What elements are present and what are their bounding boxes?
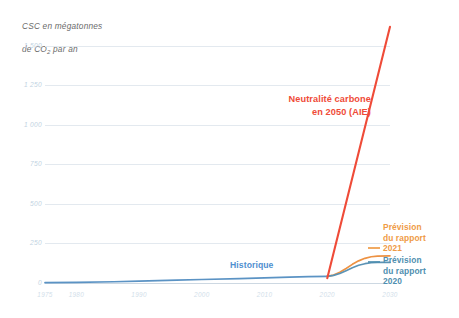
series-line-historique <box>45 276 327 282</box>
legend-item-prevision-2020: Prévision du rapport 2020 <box>383 255 426 287</box>
series-line-pr-vision-du-rapport-2020 <box>327 262 390 276</box>
annotation-neutralite-carbone: Neutralité carbone en 2050 (AIE) <box>289 93 371 118</box>
chart-container: CSC en mégatonnes de CO2 par an 02505007… <box>0 0 459 318</box>
legend-item-prevision-2021: Prévision du rapport 2021 <box>383 222 426 254</box>
series-line-neutralit-carbone-en-2050-aie <box>327 27 390 278</box>
annotation-historique: Historique <box>230 260 274 270</box>
